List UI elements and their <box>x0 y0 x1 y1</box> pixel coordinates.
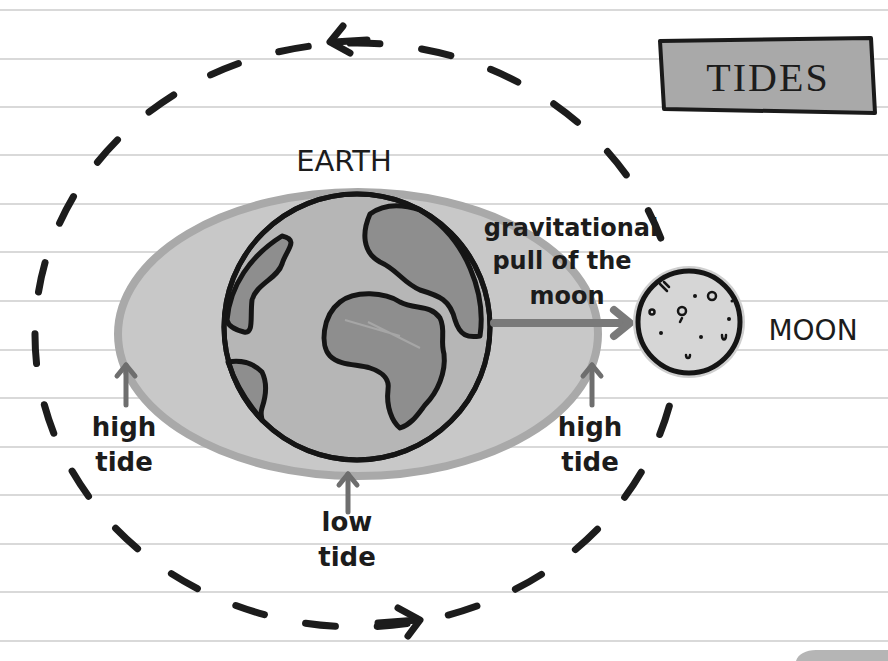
svg-text:gravitational: gravitational <box>484 214 658 242</box>
earth <box>224 194 490 460</box>
svg-text:pull of the: pull of the <box>492 247 631 275</box>
moon <box>633 266 745 378</box>
high-tide-left-label-1: high <box>92 412 157 442</box>
title-text: TIDES <box>706 55 829 100</box>
svg-text:moon: moon <box>529 282 604 310</box>
orbit-arrow-top-icon <box>330 26 367 53</box>
low-tide-label-2: tide <box>318 542 376 572</box>
high-tide-left-label-2: tide <box>95 447 153 477</box>
tides-diagram: TIDES EARTH gravitational pull of the mo… <box>0 0 888 661</box>
title-box: TIDES <box>660 38 875 113</box>
high-tide-right-label-2: tide <box>561 447 619 477</box>
page-corner-tab <box>796 650 888 661</box>
moon-label: MOON <box>768 314 857 347</box>
high-tide-right-label-1: high <box>558 412 623 442</box>
earth-label: EARTH <box>296 144 392 178</box>
orbit-arrow-bottom-icon <box>378 608 420 636</box>
low-tide-label-1: low <box>322 507 373 537</box>
